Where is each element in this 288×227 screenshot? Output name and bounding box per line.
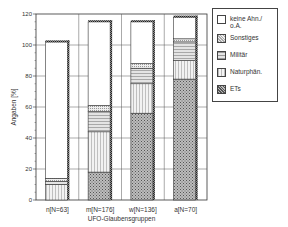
- bar-top-edge: [45, 40, 69, 42]
- legend-label-sonstiges: Sonstiges: [230, 34, 259, 41]
- bar-segment: [131, 113, 153, 200]
- legend-item-militaer: Militär: [217, 51, 247, 60]
- bar-segment: [174, 17, 196, 39]
- bar-side-edge: [110, 20, 112, 200]
- legend-swatch-militaer: [217, 51, 226, 60]
- legend-swatch-sonstiges: [217, 34, 226, 43]
- bar-top-edge: [174, 16, 198, 18]
- bar-segment: [131, 22, 153, 64]
- legend-item-naturphaen: Naturphän.: [217, 68, 262, 77]
- y-tick-label: 120: [22, 11, 33, 17]
- x-tick-label: m[N=176]: [86, 206, 115, 214]
- bar-segment: [88, 112, 110, 132]
- legend-label-keine: keine Ahn./o.A.: [230, 15, 262, 29]
- bar-top-edge: [131, 20, 155, 22]
- bar-side-edge: [153, 20, 155, 200]
- y-axis-label: Angaben [%]: [10, 88, 18, 125]
- bar-segment: [45, 42, 67, 178]
- y-tick-label: 0: [29, 197, 33, 203]
- bar-segment: [88, 172, 110, 200]
- bar-segment: [174, 61, 196, 80]
- bar-segment: [174, 42, 196, 61]
- bar-top-edge: [88, 20, 112, 22]
- bar-segment: [45, 178, 67, 181]
- legend-swatch-naturphaen: [217, 68, 226, 77]
- bar-segment: [45, 181, 67, 184]
- y-tick-label: 20: [25, 166, 32, 172]
- legend-item-sonstiges: Sonstiges: [217, 34, 259, 43]
- legend-item-keine: keine Ahn./o.A.: [217, 15, 262, 29]
- bar-segment: [88, 22, 110, 106]
- legend-swatch-ets: [217, 85, 226, 94]
- y-tick-label: 60: [25, 104, 32, 110]
- y-tick-label: 80: [25, 73, 32, 79]
- legend-label-ets: ETs: [230, 85, 241, 92]
- bar-segment: [174, 79, 196, 200]
- y-tick-label: 40: [25, 135, 32, 141]
- bar-segment: [131, 84, 153, 113]
- legend-label-militaer: Militär: [230, 51, 247, 58]
- bar-0: [45, 40, 69, 200]
- x-tick-label: w[N=136]: [128, 206, 157, 214]
- x-tick-label: n[N=63]: [46, 206, 69, 214]
- bar-segment: [45, 185, 67, 201]
- bar-segment: [131, 68, 153, 84]
- bar-segment: [174, 39, 196, 42]
- bar-3: [174, 16, 198, 200]
- legend-label-line1: keine Ahn./: [230, 15, 262, 22]
- bar-2: [131, 20, 155, 200]
- bar-segment: [88, 132, 110, 172]
- bar-segment: [88, 105, 110, 111]
- bar-side-edge: [196, 16, 198, 200]
- legend-swatch-keine: [217, 15, 226, 24]
- bar-side-edge: [67, 40, 69, 200]
- legend-item-ets: ETs: [217, 85, 241, 94]
- legend: keine Ahn./o.A. Sonstiges Militär Naturp…: [212, 8, 278, 102]
- x-axis-label: UFO-Glaubensgruppen: [88, 215, 156, 223]
- bar-segment: [131, 64, 153, 69]
- legend-label-naturphaen: Naturphän.: [230, 68, 262, 75]
- bar-1: [88, 20, 112, 200]
- x-tick-label: a[N=70]: [174, 206, 197, 214]
- y-tick-label: 100: [22, 42, 33, 48]
- legend-label-line2: o.A.: [230, 22, 242, 29]
